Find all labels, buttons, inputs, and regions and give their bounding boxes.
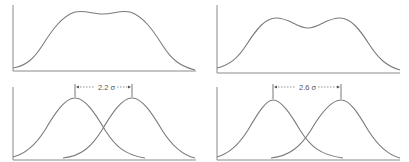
gaussian-left xyxy=(13,98,145,158)
panel-left-bottom: 2.2 σ xyxy=(13,83,196,160)
gaussian-right xyxy=(271,100,400,158)
panel-left-top xyxy=(13,5,196,71)
panel-right-bottom: 2.6 σ xyxy=(217,83,400,160)
sum-curve-flat xyxy=(13,11,195,70)
gaussian-left xyxy=(217,100,343,158)
sum-curve-bimodal xyxy=(217,18,400,70)
gaussian-separation-diagram: 2.2 σ 2.6 σ xyxy=(0,0,409,162)
gaussian-right xyxy=(63,98,195,158)
separation-label-left: 2.2 σ xyxy=(98,83,116,92)
panel-right-top xyxy=(217,5,400,73)
separation-label-right: 2.6 σ xyxy=(299,83,317,92)
